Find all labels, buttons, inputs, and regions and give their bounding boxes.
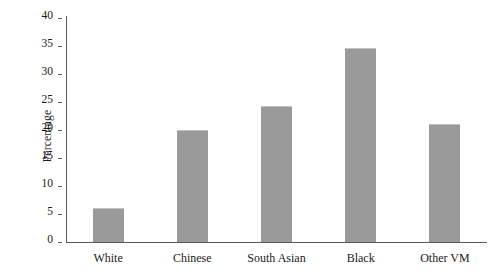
y-tick-label: 30: [42, 66, 54, 78]
bar-chart: Percentage 0510152025303540 WhiteChinese…: [0, 0, 493, 278]
y-tick-label: 20: [42, 122, 54, 134]
bar-group: [93, 18, 124, 242]
bar: [177, 130, 208, 242]
y-tick-mark: [58, 130, 63, 131]
bar: [429, 124, 460, 242]
y-tick-mark: [58, 158, 63, 159]
y-tick-label: 0: [47, 234, 53, 246]
y-tick-label: 10: [42, 178, 54, 190]
bar-group: [345, 18, 376, 242]
bar: [345, 48, 376, 242]
bar: [261, 106, 292, 242]
y-tick-label: 40: [42, 10, 54, 22]
y-tick-label: 25: [42, 94, 54, 106]
x-tick-label: Other VM: [365, 252, 493, 264]
y-tick-mark: [58, 102, 63, 103]
y-tick-mark: [58, 18, 63, 19]
y-tick-mark: [58, 74, 63, 75]
y-tick-mark: [58, 46, 63, 47]
y-tick-label: 35: [42, 38, 54, 50]
bar-group: [177, 18, 208, 242]
y-tick-mark: [58, 214, 63, 215]
plot-area: 0510152025303540: [66, 18, 487, 242]
bar-group: [261, 18, 292, 242]
bar: [93, 208, 124, 242]
bar-group: [429, 18, 460, 242]
y-tick-label: 15: [42, 150, 54, 162]
y-tick-mark: [58, 242, 63, 243]
y-tick-mark: [58, 186, 63, 187]
y-tick-label: 5: [47, 206, 53, 218]
